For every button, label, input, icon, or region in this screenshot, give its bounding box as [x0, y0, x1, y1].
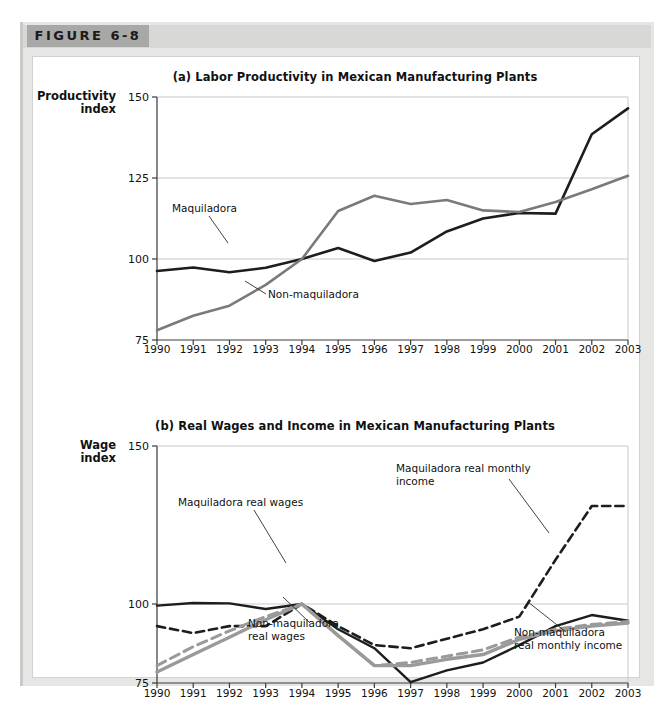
annotation-label: income — [396, 475, 434, 487]
annotation-label: real wages — [248, 630, 305, 642]
annotation-leader-line — [254, 510, 286, 563]
annotation-leader-line — [509, 479, 549, 533]
annotation-label: Non-maquiladora — [248, 617, 339, 629]
x-tick-label: 2002 — [578, 687, 605, 699]
x-tick-label: 2001 — [542, 687, 569, 699]
y-tick-label: 150 — [128, 440, 149, 453]
x-tick-label: 1994 — [289, 687, 316, 699]
x-tick-label: 1990 — [144, 687, 171, 699]
chart-b-plot: 7510015019901991199219931994199519961997… — [0, 0, 672, 706]
x-tick-label: 1993 — [252, 687, 279, 699]
x-tick-label: 1992 — [216, 687, 243, 699]
x-tick-label: 1999 — [470, 687, 497, 699]
x-tick-label: 1998 — [433, 687, 460, 699]
x-tick-label: 2000 — [506, 687, 533, 699]
annotation-label: Maquiladora real monthly — [396, 462, 531, 474]
annotation-label: real monthly income — [514, 639, 622, 651]
annotation-label: Non-maquiladora — [514, 626, 605, 638]
x-tick-label: 1997 — [397, 687, 424, 699]
x-tick-label: 1995 — [325, 687, 352, 699]
y-tick-label: 100 — [128, 598, 149, 611]
x-tick-label: 2003 — [615, 687, 642, 699]
x-tick-label: 1996 — [361, 687, 388, 699]
annotation-label: Maquiladora real wages — [178, 496, 303, 508]
x-tick-label: 1991 — [180, 687, 207, 699]
